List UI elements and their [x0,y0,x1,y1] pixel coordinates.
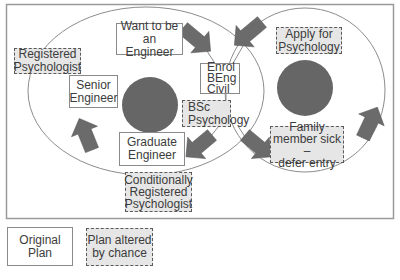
arrow-icon [350,101,390,144]
node-registered-psychologist: Registered Psychologist [14,48,81,74]
node-senior-engineer: Senior Engineer [69,75,118,108]
node-bsc-psychology: BSc Psychology [182,100,231,127]
node-graduate-engineer: Graduate Engineer [119,132,185,166]
psychology-cycle-hub [277,60,333,116]
node-enrol-beng: Enrol BEng Civil [200,63,240,94]
legend-original-plan: Original Plan [7,227,73,266]
engineering-cycle-hub [122,77,178,133]
connector-line [238,126,245,137]
node-apply-psychology: Apply for Psychology [276,27,342,54]
node-family-sick: Family member sick – defer entry [270,126,344,163]
node-want-engineer: Want to be an Engineer [116,23,183,55]
legend-altered-plan: Plan altered by chance [86,228,153,266]
arrow-icon [66,113,105,155]
node-conditionally-registered: Conditionally Registered Psychologist [125,172,192,212]
